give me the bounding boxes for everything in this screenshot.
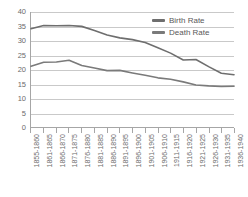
- chart-legend: Birth RateDeath Rate: [152, 16, 209, 37]
- x-tick-label: 1896-1900: [135, 134, 142, 167]
- x-tick-label: 1871-1875: [71, 134, 78, 167]
- y-tick-label: 5: [22, 110, 26, 118]
- x-tick: [221, 128, 222, 133]
- x-tick: [132, 128, 133, 133]
- legend-label: Birth Rate: [169, 16, 205, 25]
- y-tick-label: 0: [22, 124, 26, 132]
- x-tick: [209, 128, 210, 133]
- y-axis: 4035302520151050: [0, 12, 26, 128]
- x-tick-label: 1911-1915: [173, 134, 180, 167]
- x-tick-label: 1931-1935: [224, 134, 231, 167]
- x-tick-label: 1926-1930: [212, 134, 219, 167]
- x-tick-label: 1891-1895: [122, 134, 129, 167]
- x-tick: [94, 128, 95, 133]
- y-tick-label: 15: [18, 81, 26, 89]
- y-tick-label: 20: [18, 66, 26, 74]
- line-chart: 4035302520151050 1855-18601861-18651866-…: [0, 0, 248, 197]
- legend-item-death-rate[interactable]: Death Rate: [152, 28, 209, 37]
- x-tick: [43, 128, 44, 133]
- x-tick-label: 1876-1880: [84, 134, 91, 167]
- x-tick-label: 1855-1860: [33, 134, 40, 167]
- x-tick-label: 1866-1870: [59, 134, 66, 167]
- x-tick: [119, 128, 120, 133]
- x-tick: [158, 128, 159, 133]
- x-tick: [170, 128, 171, 133]
- y-tick-label: 25: [18, 52, 26, 60]
- x-axis-ticks: [30, 128, 234, 133]
- y-tick-label: 10: [18, 95, 26, 103]
- x-tick: [81, 128, 82, 133]
- x-tick: [107, 128, 108, 133]
- x-tick: [30, 128, 31, 133]
- x-tick-label: 1881-1885: [97, 134, 104, 167]
- x-tick-label: 1886-1890: [110, 134, 117, 167]
- legend-item-birth-rate[interactable]: Birth Rate: [152, 16, 209, 25]
- x-tick-label: 1936-1940: [237, 134, 244, 167]
- y-tick-label: 40: [18, 8, 26, 16]
- x-tick-label: 1861-1865: [46, 134, 53, 167]
- x-tick-label: 1906-1910: [161, 134, 168, 167]
- x-tick: [234, 128, 235, 133]
- x-tick: [68, 128, 69, 133]
- legend-swatch-icon: [152, 31, 165, 34]
- legend-swatch-icon: [152, 19, 165, 22]
- x-tick: [196, 128, 197, 133]
- x-tick-label: 1916-1920: [186, 134, 193, 167]
- x-tick: [183, 128, 184, 133]
- legend-label: Death Rate: [169, 28, 209, 37]
- x-tick: [56, 128, 57, 133]
- y-tick-label: 30: [18, 37, 26, 45]
- x-tick-label: 1901-1905: [148, 134, 155, 167]
- y-tick-label: 35: [18, 23, 26, 31]
- x-axis: 1855-18601861-18651866-18701871-18751876…: [30, 134, 234, 182]
- x-tick-label: 1921-1925: [199, 134, 206, 167]
- x-tick: [145, 128, 146, 133]
